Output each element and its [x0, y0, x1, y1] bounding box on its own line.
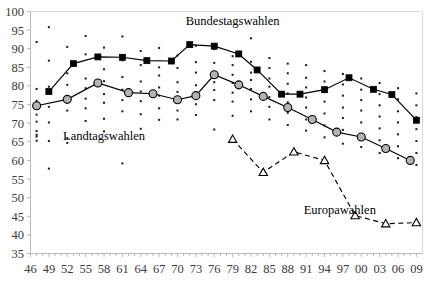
data-point-circle [63, 95, 71, 103]
scatter-dot [103, 93, 105, 95]
scatter-dot [324, 113, 326, 115]
x-tick-label: 52 [61, 262, 74, 276]
scatter-dot [48, 121, 50, 123]
scatter-dot [177, 67, 179, 69]
x-axis-ticks: 4649525558616467707376798285889194970003… [24, 254, 422, 276]
scatter-dot [379, 82, 381, 84]
scatter-dot [397, 110, 399, 112]
y-tick-label: 75 [12, 98, 25, 112]
scatter-dot [213, 89, 215, 91]
scatter-dot [195, 61, 197, 63]
scatter-dot [397, 145, 399, 147]
scatter-dot [268, 86, 270, 88]
scatter-dot [213, 99, 215, 101]
x-tick-label: 06 [392, 262, 405, 276]
scatter-dot [121, 99, 123, 101]
scatter-dot [158, 75, 160, 77]
scatter-dot [250, 72, 252, 74]
data-point-square [371, 86, 377, 92]
scatter-dot [342, 129, 344, 131]
scatter-dot [36, 134, 38, 136]
scatter-dot [342, 117, 344, 119]
scatter-dot [66, 46, 68, 48]
scatter-dot [48, 168, 50, 170]
data-point-circle [357, 133, 365, 141]
data-point-circle [210, 71, 218, 79]
data-point-triangle [259, 168, 267, 175]
scatter-points [36, 26, 418, 169]
scatter-dot [85, 35, 87, 37]
scatter-dot [379, 93, 381, 95]
scatter-dot [48, 106, 50, 108]
scatter-dot [324, 101, 326, 103]
scatter-dot [66, 84, 68, 86]
y-tick-label: 60 [12, 154, 25, 168]
scatter-dot [305, 64, 307, 66]
scatter-dot [140, 80, 142, 82]
x-tick-label: 61 [116, 262, 129, 276]
data-point-circle [406, 156, 414, 164]
scatter-dot [140, 50, 142, 52]
scatter-dot [250, 61, 252, 63]
y-tick-label: 65 [12, 135, 25, 149]
scatter-dot [232, 115, 234, 117]
scatter-dot [85, 78, 87, 80]
data-point-square [279, 91, 285, 97]
scatter-dot [415, 104, 417, 106]
x-tick-label: 94 [318, 262, 331, 276]
scatter-dot [36, 140, 38, 142]
y-tick-label: 50 [12, 191, 25, 205]
scatter-dot [342, 83, 344, 85]
x-tick-label: 09 [410, 262, 423, 276]
scatter-dot [66, 110, 68, 112]
scatter-dot [195, 84, 197, 86]
scatter-dot [177, 110, 179, 112]
scatter-dot [379, 104, 381, 106]
scatter-dot [36, 114, 38, 116]
x-tick-label: 97 [337, 262, 350, 276]
scatter-dot [140, 113, 142, 115]
x-tick-label: 85 [263, 262, 276, 276]
scatter-dot [85, 53, 87, 55]
scatter-dot [140, 91, 142, 93]
data-point-square [297, 91, 303, 97]
scatter-dot [213, 62, 215, 64]
scatter-dot [415, 152, 417, 154]
scatter-dot [305, 97, 307, 99]
data-point-square [254, 67, 260, 73]
y-tick-label: 70 [12, 117, 25, 131]
scatter-dot [232, 55, 234, 57]
x-tick-label: 82 [245, 262, 258, 276]
x-tick-label: 49 [43, 262, 56, 276]
scatter-dot [232, 92, 234, 94]
y-tick-label: 55 [12, 173, 25, 187]
scatter-dot [48, 60, 50, 62]
data-point-circle [333, 128, 341, 136]
scatter-dot [379, 127, 381, 129]
data-point-square [322, 87, 328, 93]
y-tick-label: 40 [12, 228, 25, 242]
scatter-dot [103, 102, 105, 104]
scatter-dot [360, 121, 362, 123]
scatter-dot [158, 66, 160, 68]
scatter-dot [379, 139, 381, 141]
scatter-dot [36, 41, 38, 43]
scatter-dot [324, 70, 326, 72]
scatter-dot [36, 136, 38, 138]
scatter-dot [195, 72, 197, 74]
scatter-dot [379, 115, 381, 117]
scatter-dot [324, 80, 326, 82]
scatter-dot [305, 86, 307, 88]
scatter-dot [250, 88, 252, 90]
scatter-dot [121, 35, 123, 37]
scatter-dot [287, 83, 289, 85]
scatter-dot [324, 136, 326, 138]
scatter-dot [250, 79, 252, 81]
x-tick-label: 00 [355, 262, 368, 276]
data-point-circle [382, 145, 390, 153]
data-point-square [144, 58, 150, 64]
data-point-square [211, 43, 217, 49]
scatter-dot [232, 64, 234, 66]
scatter-dot [36, 121, 38, 123]
data-point-square [236, 51, 242, 57]
